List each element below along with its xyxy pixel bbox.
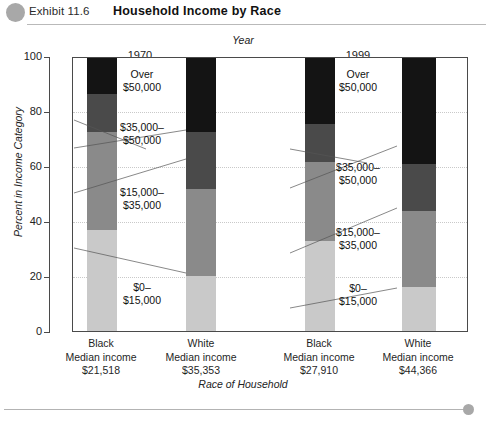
category-label-white-1970: White Median income $35,353	[156, 337, 246, 378]
callout-line1: $0–	[316, 282, 400, 295]
callout-line2: $15,000	[316, 295, 400, 308]
category-race: White	[156, 337, 246, 351]
callout-over-50000-1970: Over $50,000	[100, 68, 184, 94]
category-median-income-caption: Median income	[56, 351, 146, 365]
callout-line1: $15,000–	[316, 226, 400, 239]
bar-segment-white-1970-s3[interactable]	[186, 58, 216, 132]
callout-0-15000-1970: $0– $15,000	[100, 281, 184, 307]
category-race: White	[371, 337, 465, 351]
bar-segment-black-1999-s2[interactable]	[305, 124, 335, 162]
category-label-black-1970: Black Median income $21,518	[56, 337, 146, 378]
exhibit-header: Exhibit 11.6 Household Income by Race	[0, 0, 486, 26]
category-median-income-caption: Median income	[156, 351, 246, 365]
x-axis-title: Race of Household	[0, 378, 486, 390]
bar-segment-white-1999-s0[interactable]	[402, 287, 436, 331]
circle-dot-icon	[463, 404, 474, 415]
y-tick	[44, 167, 49, 168]
y-tick	[44, 57, 49, 58]
bar-segment-white-1999-s2[interactable]	[402, 164, 436, 210]
chart-figure: Year 1970 1999 100 80 60 40 20 0 Percent…	[0, 26, 486, 386]
callout-line2: $35,000	[316, 239, 400, 252]
header-divider	[27, 24, 486, 25]
category-median-income-caption: Median income	[274, 351, 364, 365]
top-axis-title: Year	[0, 34, 486, 46]
y-tick	[44, 222, 49, 223]
bar-segment-white-1970-s1[interactable]	[186, 189, 216, 276]
bar-segment-white-1999-s1[interactable]	[402, 211, 436, 287]
circle-bullet-icon	[6, 3, 25, 22]
callout-35000-50000-1999: $35,000– $50,000	[316, 161, 400, 187]
y-tick	[44, 112, 49, 113]
category-median-income-value: $44,366	[371, 364, 465, 378]
category-race: Black	[56, 337, 146, 351]
y-axis-line	[49, 57, 50, 333]
callout-over-50000-1999: Over $50,000	[316, 68, 400, 94]
y-tick-label: 100	[2, 50, 42, 62]
category-median-income-value: $27,910	[274, 364, 364, 378]
category-label-black-1999: Black Median income $27,910	[274, 337, 364, 378]
callout-line1: $35,000–	[316, 161, 400, 174]
callout-line1: $0–	[100, 281, 184, 294]
page-title: Household Income by Race	[113, 4, 281, 18]
y-tick	[44, 277, 49, 278]
exhibit-label: Exhibit 11.6	[29, 5, 89, 17]
callout-line2: $50,000	[100, 81, 184, 94]
callout-line2: $35,000	[100, 199, 184, 212]
callout-15000-35000-1999: $15,000– $35,000	[316, 226, 400, 252]
callout-line2: $50,000	[316, 174, 400, 187]
category-median-income-value: $35,353	[156, 364, 246, 378]
callout-0-15000-1999: $0– $15,000	[316, 282, 400, 308]
callout-15000-35000-1970: $15,000– $35,000	[100, 186, 184, 212]
bar-segment-white-1970-s2[interactable]	[186, 132, 216, 189]
callout-35000-50000-1970: $35,000– $50,000	[100, 121, 184, 147]
callout-line1: $15,000–	[100, 186, 184, 199]
category-median-income-caption: Median income	[371, 351, 465, 365]
y-tick-label: 0	[2, 325, 42, 337]
y-axis-title: Percent in Income Category	[12, 72, 24, 272]
y-axis-labels: 100 80 60 40 20 0 Percent in Income Cate…	[0, 26, 42, 366]
y-tick	[44, 332, 49, 333]
bar-white-1970[interactable]	[186, 58, 216, 331]
bar-white-1999[interactable]	[402, 58, 436, 331]
category-race: Black	[274, 337, 364, 351]
callout-line2: $15,000	[100, 294, 184, 307]
callout-line1: Over	[100, 68, 184, 81]
callout-line2: $50,000	[316, 81, 400, 94]
callout-line2: $50,000	[100, 134, 184, 147]
category-label-white-1999: White Median income $44,366	[371, 337, 465, 378]
bar-segment-white-1970-s0[interactable]	[186, 276, 216, 331]
bar-segment-white-1999-s3[interactable]	[402, 58, 436, 164]
category-median-income-value: $21,518	[56, 364, 146, 378]
footer-divider	[4, 409, 470, 410]
callout-line1: Over	[316, 68, 400, 81]
callout-line1: $35,000–	[100, 121, 184, 134]
